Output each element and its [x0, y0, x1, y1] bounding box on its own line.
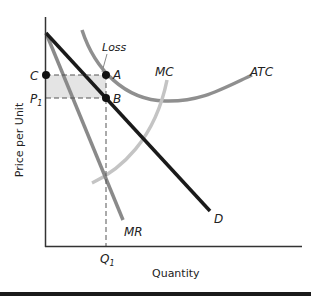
point-a [102, 71, 110, 79]
mr-label: MR [124, 225, 143, 239]
loss-label: Loss [102, 41, 127, 54]
q1-tick-label: Q1 [100, 252, 115, 268]
bottom-rule [0, 292, 311, 296]
monopoly-loss-chart: Loss A B C P1 MC ATC D MR Q1 Quantity Pr… [0, 0, 311, 298]
point-c [42, 71, 50, 79]
p1-tick-label: P1 [30, 92, 42, 108]
mr-curve [46, 33, 123, 220]
point-b-label: B [113, 92, 121, 106]
y-axis-label: Price per Unit [13, 102, 26, 177]
c-tick-label: C [30, 69, 39, 83]
point-a-label: A [112, 68, 121, 82]
mc-label: MC [155, 65, 174, 79]
demand-curve [46, 33, 210, 211]
atc-label: ATC [249, 65, 274, 79]
point-b [102, 94, 110, 102]
demand-label: D [214, 212, 223, 226]
x-axis-label: Quantity [152, 267, 200, 280]
